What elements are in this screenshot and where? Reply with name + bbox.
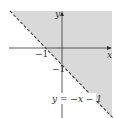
equation-label: y = −x − 1 bbox=[51, 94, 102, 104]
y-axis-label: y bbox=[54, 9, 61, 19]
x-axis-label: x bbox=[107, 50, 112, 60]
inequality-graph: y x −1 −1 y = −x − 1 bbox=[0, 0, 116, 118]
y-intercept-label: −1 bbox=[52, 64, 65, 74]
x-intercept-label: −1 bbox=[35, 49, 48, 59]
